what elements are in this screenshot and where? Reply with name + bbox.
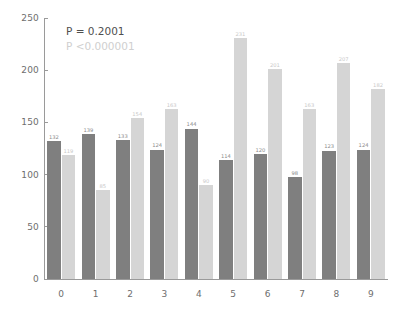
bar-value-label: 90 <box>203 179 210 184</box>
bar-dark-2: 133 <box>116 140 130 279</box>
bar-light-8: 207 <box>337 63 351 279</box>
y-axis-tick: 0 <box>33 274 44 284</box>
bar-light-5: 231 <box>234 38 248 279</box>
bar-light-1: 85 <box>96 190 110 279</box>
bar-value-label: 163 <box>167 103 177 108</box>
bar-light-3: 163 <box>165 109 179 279</box>
bar-light-9: 182 <box>371 89 385 279</box>
x-axis-tick-label: 4 <box>196 289 202 299</box>
y-axis-spine <box>44 18 45 280</box>
bar-dark-8: 123 <box>322 151 336 279</box>
bar-value-label: 133 <box>118 134 128 139</box>
y-axis-tick: 100 <box>21 170 44 180</box>
bar-dark-9: 124 <box>357 150 371 279</box>
x-axis-tick-label: 3 <box>162 289 168 299</box>
x-axis-tick-label: 8 <box>334 289 340 299</box>
y-axis-tick-label: 250 <box>21 13 44 23</box>
bar-dark-0: 132 <box>47 141 61 279</box>
y-axis-tick: 200 <box>21 65 44 75</box>
bar-value-label: 123 <box>324 144 334 149</box>
bar-value-label: 98 <box>291 171 298 176</box>
y-axis-tick-label: 100 <box>21 170 44 180</box>
bar-dark-7: 98 <box>288 177 302 279</box>
plot-area: 050100150200250 0123456789 1321191398513… <box>44 18 388 280</box>
x-axis-tick-label: 9 <box>368 289 374 299</box>
x-axis-tick-label: 2 <box>127 289 133 299</box>
bar-value-label: 154 <box>132 112 142 117</box>
bar-value-label: 201 <box>270 63 280 68</box>
y-axis-tick-label: 150 <box>21 117 44 127</box>
bar-value-label: 182 <box>373 83 383 88</box>
y-axis-tick: 150 <box>21 117 44 127</box>
x-axis-tick-label: 7 <box>299 289 305 299</box>
bar-dark-3: 124 <box>150 150 164 279</box>
x-axis-tick-label: 6 <box>265 289 271 299</box>
bar-value-label: 231 <box>235 32 245 37</box>
y-axis-tick-mark <box>44 18 48 19</box>
bar-light-2: 154 <box>131 118 145 279</box>
bar-light-7: 163 <box>303 109 317 279</box>
bar-value-label: 114 <box>221 154 231 159</box>
bar-chart-figure: P = 0.2001 P <0.000001 050100150200250 0… <box>0 0 400 313</box>
bar-value-label: 132 <box>49 135 59 140</box>
bar-dark-4: 144 <box>185 129 199 279</box>
x-axis-spine <box>44 279 388 280</box>
bar-value-label: 119 <box>63 149 73 154</box>
y-axis-tick-label: 200 <box>21 65 44 75</box>
bar-value-label: 207 <box>339 57 349 62</box>
y-axis-tick-mark <box>44 122 48 123</box>
bar-value-label: 124 <box>359 143 369 148</box>
y-axis-tick-mark <box>44 70 48 71</box>
x-axis-tick-label: 1 <box>93 289 99 299</box>
bar-value-label: 120 <box>255 148 265 153</box>
y-axis-tick-label: 0 <box>33 274 44 284</box>
y-axis-tick: 250 <box>21 13 44 23</box>
y-axis-tick-label: 50 <box>27 222 44 232</box>
y-axis-tick: 50 <box>27 222 44 232</box>
bar-value-label: 85 <box>100 184 107 189</box>
bar-dark-6: 120 <box>254 154 268 279</box>
bar-value-label: 144 <box>187 122 197 127</box>
bar-light-0: 119 <box>62 155 76 279</box>
x-axis-tick-label: 5 <box>230 289 236 299</box>
bar-dark-1: 139 <box>82 134 96 279</box>
bar-dark-5: 114 <box>219 160 233 279</box>
bar-value-label: 139 <box>83 128 93 133</box>
bar-light-6: 201 <box>268 69 282 279</box>
bar-light-4: 90 <box>199 185 213 279</box>
x-axis-tick-label: 0 <box>58 289 64 299</box>
bar-value-label: 163 <box>304 103 314 108</box>
bar-value-label: 124 <box>152 143 162 148</box>
